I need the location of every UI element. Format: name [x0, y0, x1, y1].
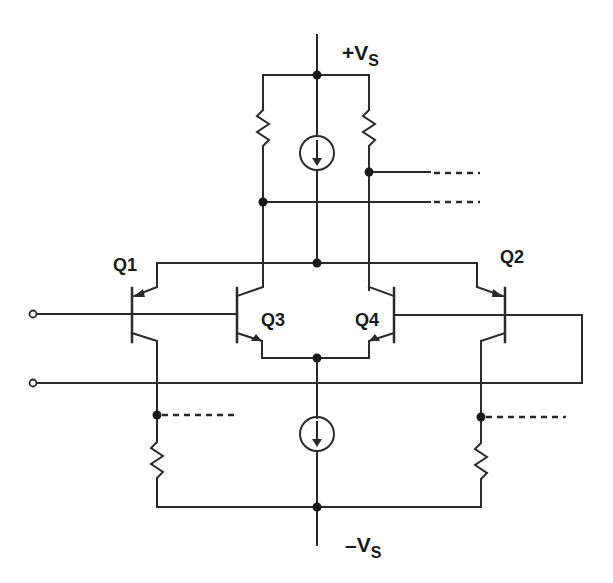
- label-q3: Q3: [261, 310, 285, 330]
- junction-dot: [313, 71, 322, 80]
- transistor-q1: [132, 263, 157, 412]
- junction-dot: [313, 354, 322, 363]
- input-terminal-minus: [30, 380, 37, 387]
- current-source-bottom: [300, 358, 334, 545]
- output-tap-top-right: [369, 172, 480, 173]
- label-q1: Q1: [113, 255, 137, 275]
- circuit-diagram: +VS –VS Q1 Q2 Q3 Q4: [0, 0, 613, 583]
- resistor-bottom-right: [475, 412, 487, 507]
- label-q4: Q4: [355, 310, 379, 330]
- junction-dot: [313, 259, 322, 268]
- input-line-inverting: [37, 315, 582, 383]
- label-vminus: –VS: [345, 533, 382, 561]
- label-vplus: +VS: [342, 41, 379, 69]
- junction-dot: [477, 413, 486, 422]
- input-terminal-plus: [30, 311, 37, 318]
- resistor-bottom-left: [151, 412, 163, 507]
- label-q2: Q2: [500, 247, 524, 267]
- resistor-top-left: [257, 110, 269, 263]
- junction-dot: [153, 411, 162, 420]
- junction-dot: [365, 168, 374, 177]
- junction-dot: [259, 198, 268, 207]
- transistor-q2: [477, 263, 505, 412]
- junction-dot: [313, 503, 322, 512]
- current-source-top: [300, 136, 334, 263]
